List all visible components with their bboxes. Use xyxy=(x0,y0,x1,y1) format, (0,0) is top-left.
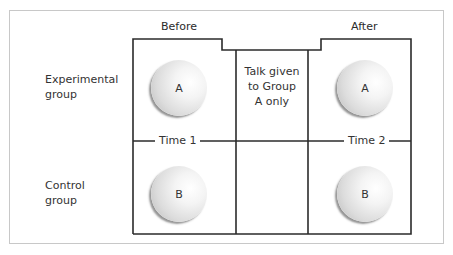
group-circle-control-before: B xyxy=(151,166,207,222)
column-header-before: Before xyxy=(161,20,197,34)
intervention-line3: A only xyxy=(237,94,307,109)
row-label-experimental-line2: group xyxy=(45,87,118,102)
group-letter: B xyxy=(175,188,183,201)
group-circle-experimental-before: A xyxy=(151,60,207,116)
intervention-line2: to Group xyxy=(237,79,307,94)
group-letter: A xyxy=(361,82,369,95)
time-2-label: Time 2 xyxy=(344,135,389,147)
grid-lines xyxy=(0,0,453,255)
group-letter: A xyxy=(175,82,183,95)
row-label-control-line1: Control xyxy=(45,178,85,193)
time-1-label: Time 1 xyxy=(155,135,200,147)
intervention-text: Talk given to Group A only xyxy=(237,64,307,109)
column-header-after: After xyxy=(351,20,377,34)
group-letter: B xyxy=(361,188,369,201)
row-label-experimental: Experimental group xyxy=(45,72,118,102)
row-label-control-line2: group xyxy=(45,193,85,208)
group-circle-experimental-after: A xyxy=(337,60,393,116)
row-label-experimental-line1: Experimental xyxy=(45,72,118,87)
group-circle-control-after: B xyxy=(337,166,393,222)
row-label-control: Control group xyxy=(45,178,85,208)
intervention-line1: Talk given xyxy=(237,64,307,79)
